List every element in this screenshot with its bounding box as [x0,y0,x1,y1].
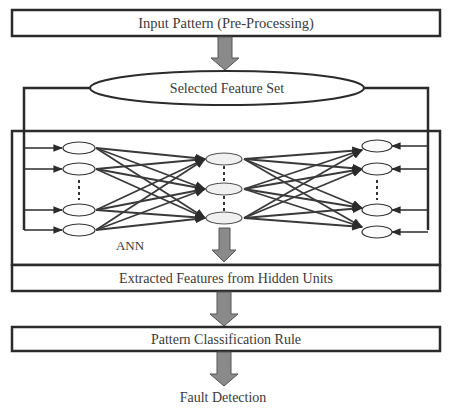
extracted-features-label: Extracted Features from Hidden Units [119,271,333,286]
pattern-classification-label: Pattern Classification Rule [151,332,301,347]
pattern-classification-box: Pattern Classification Rule [12,327,440,351]
selected-feature-set-label: Selected Feature Set [170,81,284,96]
input-hidden-connections [96,148,205,230]
flow-arrow-3 [210,292,238,326]
input-pattern-box: Input Pattern (Pre-Processing) [12,10,440,36]
input-neuron [63,163,95,175]
output-feed-arrows [392,146,428,232]
input-pattern-label: Input Pattern (Pre-Processing) [138,15,314,32]
input-feed-arrows [24,148,62,230]
output-neuron [362,226,392,238]
input-neuron [63,224,95,236]
hidden-neuron [206,183,242,195]
fault-detection-label: Fault Detection [180,390,267,405]
input-neuron [63,204,95,216]
output-neuron [362,163,392,175]
extracted-features-box: Extracted Features from Hidden Units [12,265,440,291]
output-neuron [362,204,392,216]
input-neuron [63,142,95,154]
hidden-neuron [206,212,242,224]
hidden-layer [206,153,242,224]
hidden-output-connections [244,150,362,227]
hidden-neuron [206,153,242,165]
flow-arrow-1 [211,37,239,70]
output-neuron [362,140,392,152]
flow-arrow-2 [212,228,236,262]
ann-label: ANN [116,238,145,253]
flow-arrow-4 [210,352,238,386]
selected-feature-set-node: Selected Feature Set [90,71,364,105]
diagram-canvas: Input Pattern (Pre-Processing) Selected … [0,0,454,414]
